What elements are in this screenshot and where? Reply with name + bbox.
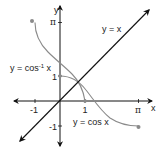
- tick-label-y-1: 1: [52, 72, 57, 82]
- tick-label-y-neg1: -1: [49, 122, 57, 132]
- label-cos: y = cos x: [73, 117, 109, 127]
- tick-label-x-1: 1: [83, 105, 88, 115]
- label-arccos-prefix: y = cos: [10, 63, 39, 73]
- tick-label-x-pi: π: [135, 105, 141, 115]
- point-arccos-start: [30, 19, 34, 23]
- label-arccos: y = cos-1 x: [10, 63, 52, 73]
- point-arccos-end: [83, 99, 87, 103]
- tick-label-x-neg1: -1: [30, 105, 38, 115]
- y-axis-label: y: [54, 5, 59, 15]
- point-cos-end: [137, 125, 141, 129]
- tick-label-y-pi: π: [50, 17, 56, 27]
- label-arccos-suffix: x: [44, 63, 52, 73]
- x-axis-label: x: [151, 103, 156, 113]
- graph-canvas: x y -1 1 π π 1 -1 y = x y = cos-1 x y = …: [0, 0, 162, 155]
- point-cos-start: [58, 74, 62, 78]
- label-identity: y = x: [102, 24, 122, 34]
